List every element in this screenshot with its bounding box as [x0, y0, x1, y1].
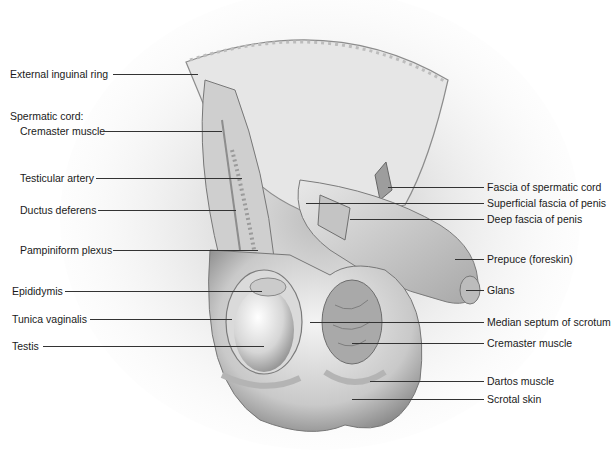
leader-line	[352, 399, 484, 400]
leader-line	[350, 219, 484, 220]
leader-line	[306, 203, 484, 204]
label-dartos-muscle: Dartos muscle	[487, 375, 554, 387]
label-external-inguinal-ring: External inguinal ring	[10, 68, 108, 80]
leader-line	[104, 131, 222, 132]
label-cremaster-muscle-left: Cremaster muscle	[20, 125, 105, 137]
label-superficial-fascia-of-penis: Superficial fascia of penis	[487, 197, 606, 209]
leader-line	[455, 259, 484, 260]
label-pampiniform-plexus: Pampiniform plexus	[20, 244, 112, 256]
leader-line	[113, 74, 198, 75]
label-deep-fascia-of-penis: Deep fascia of penis	[487, 213, 582, 225]
testis	[234, 288, 294, 372]
label-cremaster-muscle-right: Cremaster muscle	[487, 337, 572, 349]
anatomy-figure: External inguinal ring Spermatic cord: C…	[0, 0, 616, 474]
label-median-septum-of-scrotum: Median septum of scrotum	[487, 316, 611, 328]
label-testicular-artery: Testicular artery	[20, 172, 94, 184]
leader-line	[43, 346, 264, 347]
leader-line	[113, 250, 258, 251]
epididymis	[250, 278, 286, 296]
label-spermatic-cord: Spermatic cord:	[10, 110, 84, 122]
leader-line	[352, 343, 484, 344]
label-ductus-deferens: Ductus deferens	[20, 204, 96, 216]
leader-line	[65, 291, 262, 292]
leader-line	[90, 319, 232, 320]
leader-line	[310, 322, 484, 323]
leader-line	[388, 187, 484, 188]
label-testis: Testis	[12, 340, 39, 352]
leader-line	[370, 381, 484, 382]
label-prepuce: Prepuce (foreskin)	[487, 253, 573, 265]
label-glans: Glans	[487, 284, 514, 296]
label-epididymis: Epididymis	[12, 285, 63, 297]
leader-line	[96, 178, 242, 179]
leader-line	[466, 290, 484, 291]
label-tunica-vaginalis: Tunica vaginalis	[12, 313, 87, 325]
label-scrotal-skin: Scrotal skin	[487, 393, 541, 405]
label-fascia-of-spermatic-cord: Fascia of spermatic cord	[487, 181, 601, 193]
leader-line	[98, 210, 236, 211]
